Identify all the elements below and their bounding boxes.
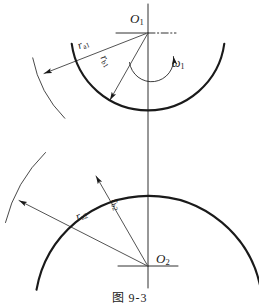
figure-caption: 图 9-3 [0,288,259,306]
figure-container: O1 O2 ra1 rb1 ra2 rb2 ω1 图 9-3 [0,0,259,308]
gear-diagram-canvas [0,0,259,308]
center-label-o2-sub: 2 [165,257,169,267]
center-label-o1-sub: 1 [139,17,143,27]
omega1-rotation-arrow [130,57,174,82]
center-label-o2-main: O [156,251,165,266]
lower-thin-outer-arc [6,153,46,223]
angular-velocity-label-omega1: ω1 [172,57,184,71]
angular-velocity-label-sub: 1 [180,62,184,71]
dimension-label-rb2-sub: b2 [109,202,119,211]
center-label-o2: O2 [156,252,170,266]
center-label-o1-main: O [130,11,139,26]
center-label-o1: O1 [130,12,144,26]
rb2-dimension-line [96,176,147,265]
rb1-dimension-line [110,34,147,100]
